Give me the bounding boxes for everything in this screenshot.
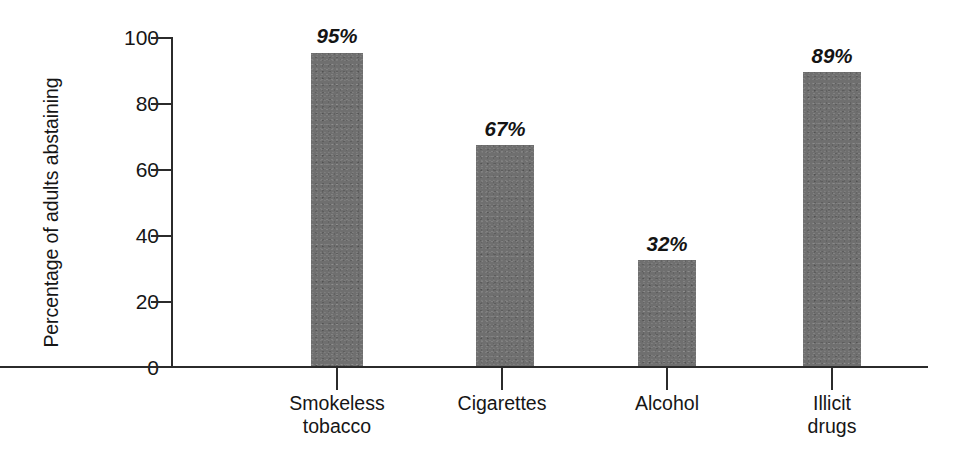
y-tick-mark-60	[151, 169, 172, 171]
value-label-illicit-drugs: 89%	[782, 46, 882, 67]
value-label-cigarettes: 67%	[455, 119, 555, 140]
y-tick-mark-20	[151, 301, 172, 303]
y-tick-label-40: 40	[99, 225, 159, 246]
bar-chart: Percentage of adults abstaining 100 80 6…	[0, 0, 961, 473]
y-tick-label-60: 60	[99, 159, 159, 180]
y-tick-label-80: 80	[99, 93, 159, 114]
bar-smokeless-tobacco	[311, 53, 363, 367]
x-tick-mark-cigarettes	[501, 368, 503, 390]
x-axis-label-smokeless-tobacco: Smokeless tobacco	[257, 392, 417, 438]
y-axis-title: Percentage of adults abstaining	[40, 45, 63, 380]
y-tick-mark-80	[151, 103, 172, 105]
y-axis-tick-labels: 100 80 60 40 20 0	[95, 0, 159, 473]
x-axis-line	[0, 366, 928, 368]
bar-cigarettes	[476, 145, 534, 366]
y-tick-label-100: 100	[99, 27, 159, 48]
y-tick-mark-40	[151, 235, 172, 237]
x-tick-mark-illicit-drugs	[831, 368, 833, 390]
bar-alcohol	[638, 260, 696, 366]
value-label-smokeless-tobacco: 95%	[287, 26, 387, 47]
x-axis-label-illicit-drugs: Illicit drugs	[752, 392, 912, 438]
value-label-alcohol: 32%	[617, 234, 717, 255]
x-axis-label-alcohol: Alcohol	[587, 392, 747, 415]
x-axis-label-cigarettes: Cigarettes	[422, 392, 582, 415]
x-tick-mark-alcohol	[666, 368, 668, 390]
y-axis-line	[171, 37, 173, 368]
y-tick-mark-100	[151, 37, 172, 39]
bar-illicit-drugs	[803, 72, 861, 366]
y-tick-label-20: 20	[99, 291, 159, 312]
x-tick-mark-smokeless-tobacco	[336, 368, 338, 390]
